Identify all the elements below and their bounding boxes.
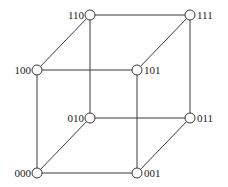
cube-diagram: 110111100101010011000001 [0, 0, 228, 187]
vertex-101: 101 [132, 64, 161, 76]
edge-110-100 [37, 15, 90, 70]
edges [37, 15, 190, 173]
vertex-circle-icon [32, 168, 42, 178]
vertex-label: 110 [68, 9, 85, 21]
vertex-circle-icon [132, 168, 142, 178]
vertex-label: 101 [144, 64, 161, 76]
vertex-circle-icon [185, 10, 195, 20]
edge-011-001 [137, 118, 190, 173]
nodes: 110111100101010011000001 [15, 9, 214, 179]
vertex-010: 010 [68, 112, 96, 124]
edge-111-101 [137, 15, 190, 70]
vertex-label: 010 [68, 112, 85, 124]
vertex-001: 001 [132, 167, 161, 179]
edge-010-000 [37, 118, 90, 173]
vertex-label: 001 [144, 167, 161, 179]
vertex-circle-icon [32, 65, 42, 75]
vertex-label: 111 [197, 9, 213, 21]
vertex-000: 000 [15, 167, 43, 179]
vertex-circle-icon [185, 113, 195, 123]
vertex-110: 110 [68, 9, 95, 21]
vertex-circle-icon [85, 10, 95, 20]
vertex-label: 100 [15, 64, 32, 76]
vertex-circle-icon [85, 113, 95, 123]
vertex-100: 100 [15, 64, 43, 76]
vertex-111: 111 [185, 9, 213, 21]
vertex-label: 000 [15, 167, 32, 179]
vertex-label: 011 [197, 112, 213, 124]
vertex-011: 011 [185, 112, 213, 124]
vertex-circle-icon [132, 65, 142, 75]
